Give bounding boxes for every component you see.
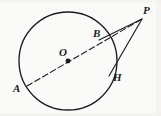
figure-strokes: [19, 12, 142, 110]
point-label-b: B: [93, 28, 100, 39]
geometry-canvas: [0, 0, 161, 116]
point-label-p: P: [143, 5, 150, 16]
point-label-o: O: [59, 47, 67, 58]
secant-line-AOBP: [27, 19, 142, 86]
point-label-h: H: [113, 72, 122, 83]
center-point-dot: [66, 59, 71, 64]
geometry-figure: A O B H P: [0, 0, 161, 116]
point-label-a: A: [13, 83, 20, 94]
